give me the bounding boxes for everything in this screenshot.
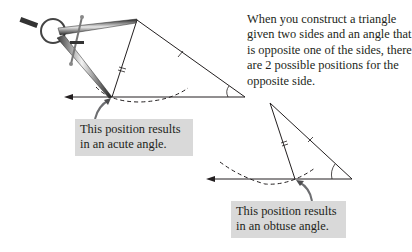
- arrowhead-icon: [206, 176, 215, 182]
- pointer-arrow-icon: [299, 182, 312, 201]
- callout-obtuse-angle: This position results in an obtuse angle…: [231, 201, 346, 238]
- angle-arc: [331, 164, 335, 179]
- explanation-caption: When you construct a triangle given two …: [247, 12, 412, 89]
- angle-arc: [227, 86, 229, 97]
- callout-acute-angle: This position results in an acute angle.: [75, 119, 193, 156]
- arrowhead-icon: [64, 94, 73, 100]
- compass-icon: [20, 15, 137, 98]
- side-left: [112, 20, 137, 97]
- side-right: [137, 20, 245, 97]
- obtuse-figure: [206, 103, 352, 201]
- acute-figure: [64, 20, 245, 119]
